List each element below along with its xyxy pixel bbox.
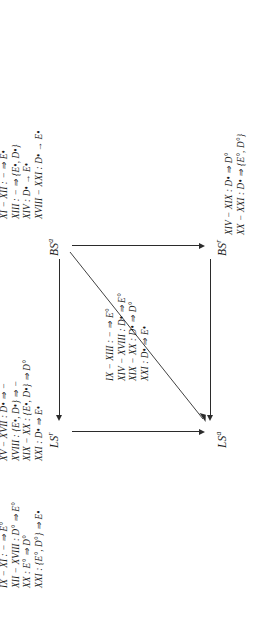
bs-a-annotations-block: XI − XII : − ⇒ E• XIII : − ⇒ {E•, D•} XI… [0,130,45,219]
bs-r-annotations-block: XIV − XIX : D• ⇒ D° XX − XXI : D• ⇒ {E°,… [224,134,247,235]
node-bs-a-label: BS [48,243,60,256]
bs-a-annotation-line: XIII : − ⇒ {E•, D•} [11,130,23,219]
node-ls-a-label: LS [216,435,228,448]
ls-a-annotation-line: IX − XI : − ⇒ E° [0,502,11,588]
edge-bsa-to-lsr-arrowhead [56,415,62,421]
edge-bsa-to-bsr-arrowhead [199,243,205,249]
ls-a-annotation-line: XXI : {E°, D°} ⇒ E• [34,502,46,588]
edge-bsr-to-lsa-arrowhead [207,415,213,421]
bs-a-annotation-line: XVIII − XXI : D• → E• [34,130,46,219]
bs-a-annotation-line: XI − XII : − ⇒ E• [0,130,11,219]
diagonal-annotation-line: XIX − XX : D• ⇒ D° [128,293,140,381]
commutative-diagram: LSr LSa BSa BSr XV − XVII : D• ⇒ − XVIII… [0,0,269,618]
diagonal-annotation-line: XXI : D• ⇒ E• [140,293,152,381]
edge-bsa-to-bsr-line [72,245,199,246]
bs-r-annotation-line: XX − XXI : D• ⇒ {E°, D°} [236,134,248,235]
node-bs-a[interactable]: BSa [46,239,60,256]
diagonal-annotation-line: IX − XIII : − ⇒ E° [105,293,117,381]
edge-lsr-to-lsa-arrowhead [199,429,205,435]
diagonal-annotations-block: IX − XIII : − ⇒ E° XIV − XVIII : D• ⇒ E°… [105,293,151,381]
ls-r-annotation-line: XIX − XX : {E•, D•} ⇒ D° [22,360,34,461]
ls-r-annotation-line: XV − XVII : D• ⇒ − [0,360,11,461]
node-bs-r[interactable]: BSr [214,240,228,256]
edge-lsr-to-lsa-line [72,431,199,432]
ls-r-annotation-line: XVIII : {E•, D•} ⇒ − [11,360,23,461]
node-ls-a[interactable]: LSa [214,432,228,449]
node-ls-r-label: LS [48,435,60,448]
rotated-figure-wrapper: LSr LSa BSa BSr XV − XVII : D• ⇒ − XVIII… [0,0,269,618]
edge-bsr-to-lsa-line [210,259,211,415]
ls-a-annotations-block: IX − XI : − ⇒ E° XII − XVIII : D° ⇒ E° X… [0,502,45,588]
node-ls-a-superscript: a [214,432,223,436]
edge-bsa-to-lsr-line [59,259,60,415]
node-bs-a-superscript: a [46,239,55,243]
ls-a-annotation-line: XX : E° ⇒ D° [22,502,34,588]
node-bs-r-label: BS [216,243,228,256]
ls-r-annotation-line: XXI : D• ⇒ E• [34,360,46,461]
node-bs-r-superscript: r [214,240,223,243]
node-ls-r[interactable]: LSr [46,432,60,448]
ls-a-annotation-line: XII − XVIII : D° ⇒ E° [11,502,23,588]
node-ls-r-superscript: r [46,432,55,435]
ls-r-annotations-block: XV − XVII : D• ⇒ − XVIII : {E•, D•} ⇒ − … [0,360,45,461]
diagonal-annotation-line: XIV − XVIII : D• ⇒ E° [117,293,129,381]
bs-r-annotation-line: XIV − XIX : D• ⇒ D° [224,134,236,235]
bs-a-annotation-line: XIV : D• → E• [22,130,34,219]
